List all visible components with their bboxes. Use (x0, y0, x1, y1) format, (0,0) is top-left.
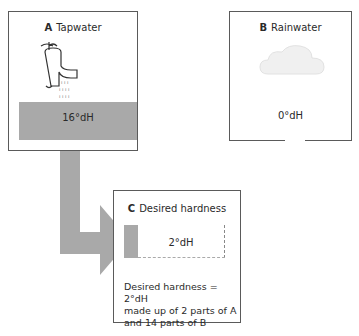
box-c-description: Desired hardness = 2°dH made up of 2 par… (124, 281, 240, 329)
box-c-letter: C (128, 203, 135, 214)
box-desired-hardness: CDesired hardness 2°dH Desired hardness … (113, 190, 241, 323)
box-tapwater: ATapwater ı ı ı ı ı ı ı ı ı ı ı 16°dH (8, 11, 138, 151)
box-b-label: Rainwater (271, 22, 321, 33)
description-line-3: and 14 parts of B (124, 317, 240, 329)
svg-text:ı ı ı ı: ı ı ı ı (59, 93, 69, 99)
svg-text:ı ı ı: ı ı ı (61, 79, 68, 85)
box-c-label: Desired hardness (139, 203, 226, 214)
description-line-2: made up of 2 parts of A (124, 305, 240, 317)
box-c-band (124, 225, 138, 258)
svg-text:ı ı ı ı: ı ı ı ı (59, 86, 69, 92)
cloud-icon (258, 42, 330, 78)
box-c-title: CDesired hardness (114, 203, 240, 214)
description-line-1: Desired hardness = 2°dH (124, 281, 240, 305)
box-rainwater: BRainwater 0°dH (229, 11, 352, 141)
box-b-value: 0°dH (230, 110, 351, 121)
box-c-value: 2°dH (138, 237, 224, 248)
box-b-title: BRainwater (230, 22, 351, 33)
box-b-letter: B (259, 22, 267, 33)
box-a-title: ATapwater (9, 22, 137, 33)
box-a-value: 16°dH (19, 112, 137, 123)
box-a-label: Tapwater (56, 22, 101, 33)
tap-icon: ı ı ı ı ı ı ı ı ı ı ı (37, 40, 85, 100)
box-a-letter: A (44, 22, 52, 33)
box-b-outlet-gap (285, 138, 305, 144)
